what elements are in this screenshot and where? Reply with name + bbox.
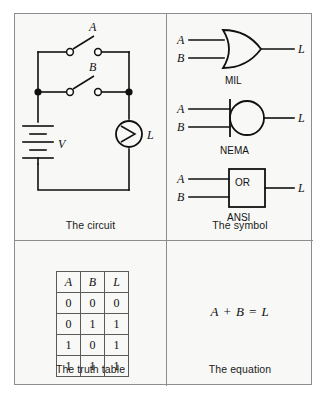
gate-ansi: OR A B L ANSI [176, 169, 305, 223]
mil-or-body [223, 30, 261, 68]
caption-equation: The equation [167, 363, 313, 375]
ansi-input-b-label: B [177, 190, 185, 204]
junction-node-right [125, 88, 132, 95]
table-row: 1 0 1 [57, 335, 129, 356]
circuit-diagram: A B V [15, 14, 166, 214]
table-header-b: B [81, 272, 105, 293]
cell-l: 0 [105, 293, 129, 314]
panel-equation: A + B = L The equation [167, 241, 313, 386]
table-header-l: L [105, 272, 129, 293]
equation-expression: A + B = L [167, 304, 313, 320]
battery-label: V [58, 137, 67, 151]
junction-node-left [34, 88, 41, 95]
cell-b: 0 [81, 335, 105, 356]
nema-input-a-label: A [176, 102, 185, 116]
nema-input-b-label: B [177, 120, 185, 134]
lamp-label: L [146, 128, 154, 142]
panel-truth-table: A B L 0 0 0 0 1 1 1 0 [15, 241, 166, 386]
cell-l: 1 [105, 314, 129, 335]
table-header-row: A B L [57, 272, 129, 293]
table-header-a: A [57, 272, 81, 293]
switch-a-terminal-left [67, 49, 74, 56]
panel-symbol: A B L MIL A B L NEMA [167, 14, 313, 240]
cell-a: 1 [57, 335, 81, 356]
mil-output-label: L [297, 42, 305, 56]
switch-a-terminal-right [95, 49, 102, 56]
switch-b-terminal-left [67, 89, 74, 96]
cell-b: 1 [81, 314, 105, 335]
ansi-or-body [229, 169, 265, 207]
symbol-diagram: A B L MIL A B L NEMA [167, 14, 313, 219]
caption-truth-table: The truth table [15, 363, 166, 375]
mil-input-b-label: B [177, 51, 185, 65]
caption-circuit: The circuit [15, 219, 166, 231]
switch-a-blade [73, 36, 94, 49]
switch-b-terminal-right [95, 89, 102, 96]
ansi-body-label: OR [235, 177, 250, 188]
table-row: 0 0 0 [57, 293, 129, 314]
truth-table: A B L 0 0 0 0 1 1 1 0 [56, 271, 129, 377]
cell-l: 1 [105, 335, 129, 356]
ansi-output-label: L [297, 181, 305, 195]
or-gate-figure: A B V [14, 13, 312, 385]
cell-a: 0 [57, 314, 81, 335]
mil-standard-label: MIL [225, 75, 242, 86]
nema-or-body [230, 101, 264, 135]
nema-standard-label: NEMA [220, 145, 249, 156]
panel-circuit: A B V [15, 14, 166, 240]
table-row: 0 1 1 [57, 314, 129, 335]
cell-a: 0 [57, 293, 81, 314]
wire-bottom [38, 164, 129, 190]
mil-input-a-label: A [176, 33, 185, 47]
ansi-input-a-label: A [176, 172, 185, 186]
caption-symbol: The symbol [167, 219, 313, 231]
switch-b-blade [73, 76, 94, 89]
battery-symbol [23, 126, 53, 164]
lamp-symbol [116, 121, 142, 147]
gate-nema: A B L NEMA [176, 99, 305, 156]
gate-mil: A B L MIL [176, 30, 305, 86]
switch-b-label: B [89, 60, 97, 74]
nema-output-label: L [297, 111, 305, 125]
switch-a-label: A [88, 20, 97, 34]
cell-b: 0 [81, 293, 105, 314]
